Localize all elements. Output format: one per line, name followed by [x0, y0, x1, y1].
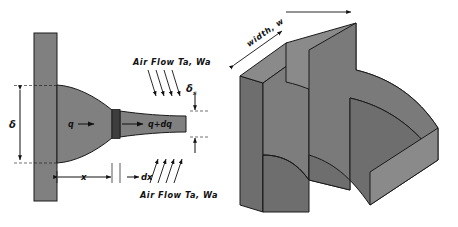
tip-thickness-subscript: s [193, 89, 197, 96]
base-thickness-label: δ [9, 119, 16, 130]
base-wall [34, 33, 57, 201]
x-dimension-label: x [80, 172, 87, 182]
figure-canvas: q q+dq δ δ s x [0, 0, 458, 227]
base-left-face [240, 76, 263, 212]
heat-flux-in-label: q [68, 120, 74, 129]
differential-element [112, 110, 120, 139]
airflow-bottom-label: Air Flow Ta, Wa [139, 190, 218, 200]
tip-thickness-label: δ [186, 83, 193, 94]
airflow-top-label: Air Flow Ta, Wa [132, 57, 211, 67]
fin-diagram-svg: q q+dq δ δ s x [0, 0, 458, 227]
heat-flux-out-label: q+dq [148, 120, 172, 129]
